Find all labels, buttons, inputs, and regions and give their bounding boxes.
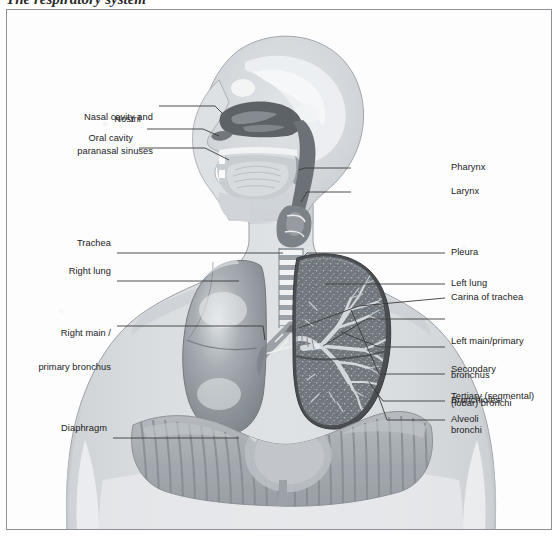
label-pharynx: Pharynx	[451, 162, 551, 173]
label-right-lung: Right lung	[7, 266, 111, 277]
label-bronchioles: Bronchioles	[451, 395, 551, 406]
label-larynx: Larynx	[451, 186, 551, 197]
figure-title: The respiratory system	[0, 0, 326, 7]
label-carina-of-trachea: Carina of trachea	[451, 292, 552, 303]
label-line: paranasal sinuses	[7, 146, 153, 157]
label-left-lung: Left lung	[451, 278, 551, 289]
label-alveoli: Alveoli	[451, 414, 551, 425]
label-nostril: Nostril	[7, 114, 141, 125]
label-pleura: Pleura	[451, 247, 551, 258]
label-oral-cavity: Oral cavity	[7, 133, 133, 144]
label-line: primary bronchus	[7, 362, 111, 373]
head-sagittal-section	[193, 36, 364, 222]
label-right-main-primary-bronchus: Right main / primary bronchus	[7, 305, 111, 396]
figure-plate: Nasal cavity and paranasal sinuses Nostr…	[6, 9, 552, 530]
label-line: Right main /	[7, 328, 111, 339]
label-diaphragm: Diaphragm	[7, 423, 107, 434]
figure-page: The respiratory system	[0, 0, 557, 537]
label-line: bronchi	[451, 425, 552, 436]
label-trachea: Trachea	[7, 238, 111, 249]
